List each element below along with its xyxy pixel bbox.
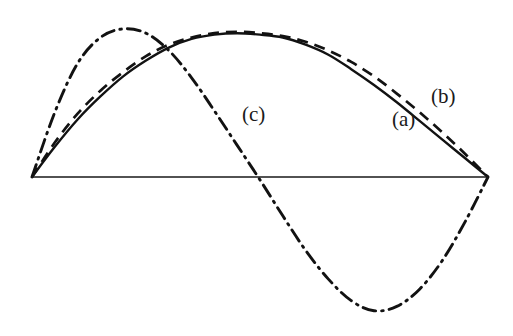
curve-label-a: (a) [392, 109, 415, 130]
curve-label-b: (b) [431, 86, 456, 107]
curve-label-c: (c) [242, 104, 265, 125]
figure-canvas: (a) (b) (c) [0, 0, 513, 336]
line-plot-svg [0, 0, 513, 336]
curve-series-c [32, 29, 488, 311]
